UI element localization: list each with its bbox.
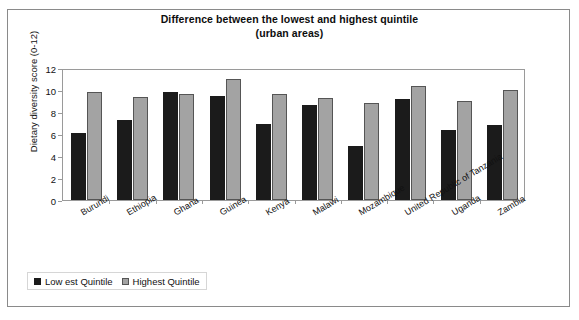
- x-axis-tick-mark: [295, 200, 296, 204]
- bar: [318, 98, 333, 200]
- chart-title-line-2: (urban areas): [0, 26, 579, 40]
- bar: [348, 146, 363, 200]
- chart-title: Difference between the lowest and highes…: [0, 12, 579, 40]
- legend-item[interactable]: Highest Quintile: [122, 276, 200, 287]
- bar: [503, 90, 518, 200]
- bar: [302, 105, 317, 200]
- bar: [133, 97, 148, 200]
- bar: [87, 92, 102, 200]
- bar: [226, 79, 241, 200]
- y-axis-tick-label: 10: [30, 86, 56, 97]
- x-axis-tick-mark: [248, 200, 249, 204]
- bar-group: [109, 70, 155, 200]
- y-axis-tick-mark: [58, 201, 62, 202]
- y-axis-tick-label: 4: [30, 152, 56, 163]
- legend-item-label: Highest Quintile: [133, 276, 200, 287]
- x-axis-tick-mark: [341, 200, 342, 204]
- y-axis-tick-label: 2: [30, 174, 56, 185]
- x-axis-tick-mark: [202, 200, 203, 204]
- bar-group: [248, 70, 294, 200]
- bar: [364, 103, 379, 200]
- y-axis-tick-label: 8: [30, 108, 56, 119]
- bar: [117, 120, 132, 200]
- legend-item[interactable]: Low est Quintile: [34, 276, 113, 287]
- bar: [256, 124, 271, 200]
- bar-group: [202, 70, 248, 200]
- bar: [179, 94, 194, 200]
- legend-swatch-icon: [122, 278, 129, 285]
- bar: [71, 133, 86, 200]
- chart-legend: Low est QuintileHighest Quintile: [27, 272, 207, 290]
- chart-title-line-1: Difference between the lowest and highes…: [161, 13, 419, 25]
- legend-item-label: Low est Quintile: [45, 276, 113, 287]
- bar: [210, 96, 225, 201]
- bar: [272, 94, 287, 200]
- bar-group: [63, 70, 109, 200]
- legend-swatch-icon: [34, 278, 41, 285]
- bar-group: [156, 70, 202, 200]
- bar-group: [341, 70, 387, 200]
- y-axis-tick-label: 0: [30, 196, 56, 207]
- bar-group: [295, 70, 341, 200]
- y-axis-tick-label: 6: [30, 130, 56, 141]
- bar: [163, 92, 178, 200]
- y-axis-tick-label: 12: [30, 64, 56, 75]
- bar: [411, 86, 426, 200]
- bar-group: [387, 70, 433, 200]
- bar-group: [480, 70, 526, 200]
